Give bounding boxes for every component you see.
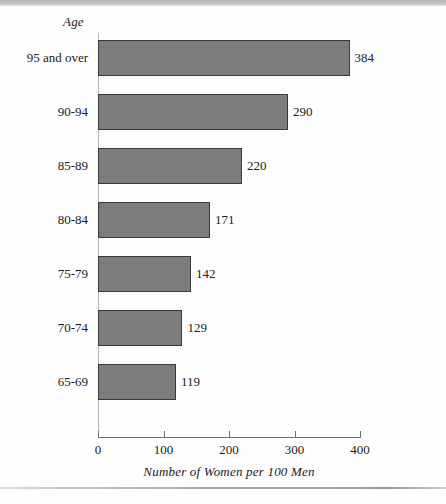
- x-axis-line: [98, 437, 361, 438]
- bar-row: 142: [98, 256, 360, 292]
- horizontal-bar-chart: Age 95 and over90-9485-8980-8475-7970-74…: [0, 0, 446, 504]
- bar: [98, 310, 182, 346]
- bar-value-label: 171: [215, 212, 235, 228]
- bar: [98, 94, 288, 130]
- x-axis-tick: [164, 431, 165, 437]
- bar: [98, 202, 210, 238]
- x-axis-tick-label: 400: [350, 442, 370, 458]
- bar-value-label: 384: [355, 50, 375, 66]
- bar-value-label: 142: [196, 266, 216, 282]
- bar-row: 129: [98, 310, 360, 346]
- category-label: 70-74: [2, 320, 88, 336]
- category-axis-labels: 95 and over90-9485-8980-8475-7970-7465-6…: [0, 0, 88, 504]
- x-axis-title: Number of Women per 100 Men: [98, 464, 360, 480]
- bar-row: 171: [98, 202, 360, 238]
- bar-value-label: 290: [293, 104, 313, 120]
- bar: [98, 364, 176, 400]
- bar: [98, 148, 242, 184]
- category-label: 80-84: [2, 212, 88, 228]
- category-label: 65-69: [2, 374, 88, 390]
- x-axis-tick: [98, 431, 99, 437]
- x-axis-tick: [295, 431, 296, 437]
- category-label: 75-79: [2, 266, 88, 282]
- bar-value-label: 129: [187, 320, 207, 336]
- x-axis-tick: [229, 431, 230, 437]
- bar: [98, 256, 191, 292]
- plot-area: 384290220171142129119: [98, 40, 360, 437]
- bar: [98, 40, 350, 76]
- bar-row: 290: [98, 94, 360, 130]
- x-axis-tick-label: 200: [219, 442, 239, 458]
- category-label: 95 and over: [2, 50, 88, 66]
- x-axis-tick-label: 300: [285, 442, 305, 458]
- category-label: 85-89: [2, 158, 88, 174]
- bar-value-label: 220: [247, 158, 267, 174]
- bar-row: 119: [98, 364, 360, 400]
- bar-row: 220: [98, 148, 360, 184]
- bar-row: 384: [98, 40, 360, 76]
- x-axis-tick-label: 0: [95, 442, 102, 458]
- x-axis-tick: [360, 431, 361, 437]
- category-label: 90-94: [2, 104, 88, 120]
- bar-value-label: 119: [181, 374, 200, 390]
- x-axis-tick-label: 100: [154, 442, 174, 458]
